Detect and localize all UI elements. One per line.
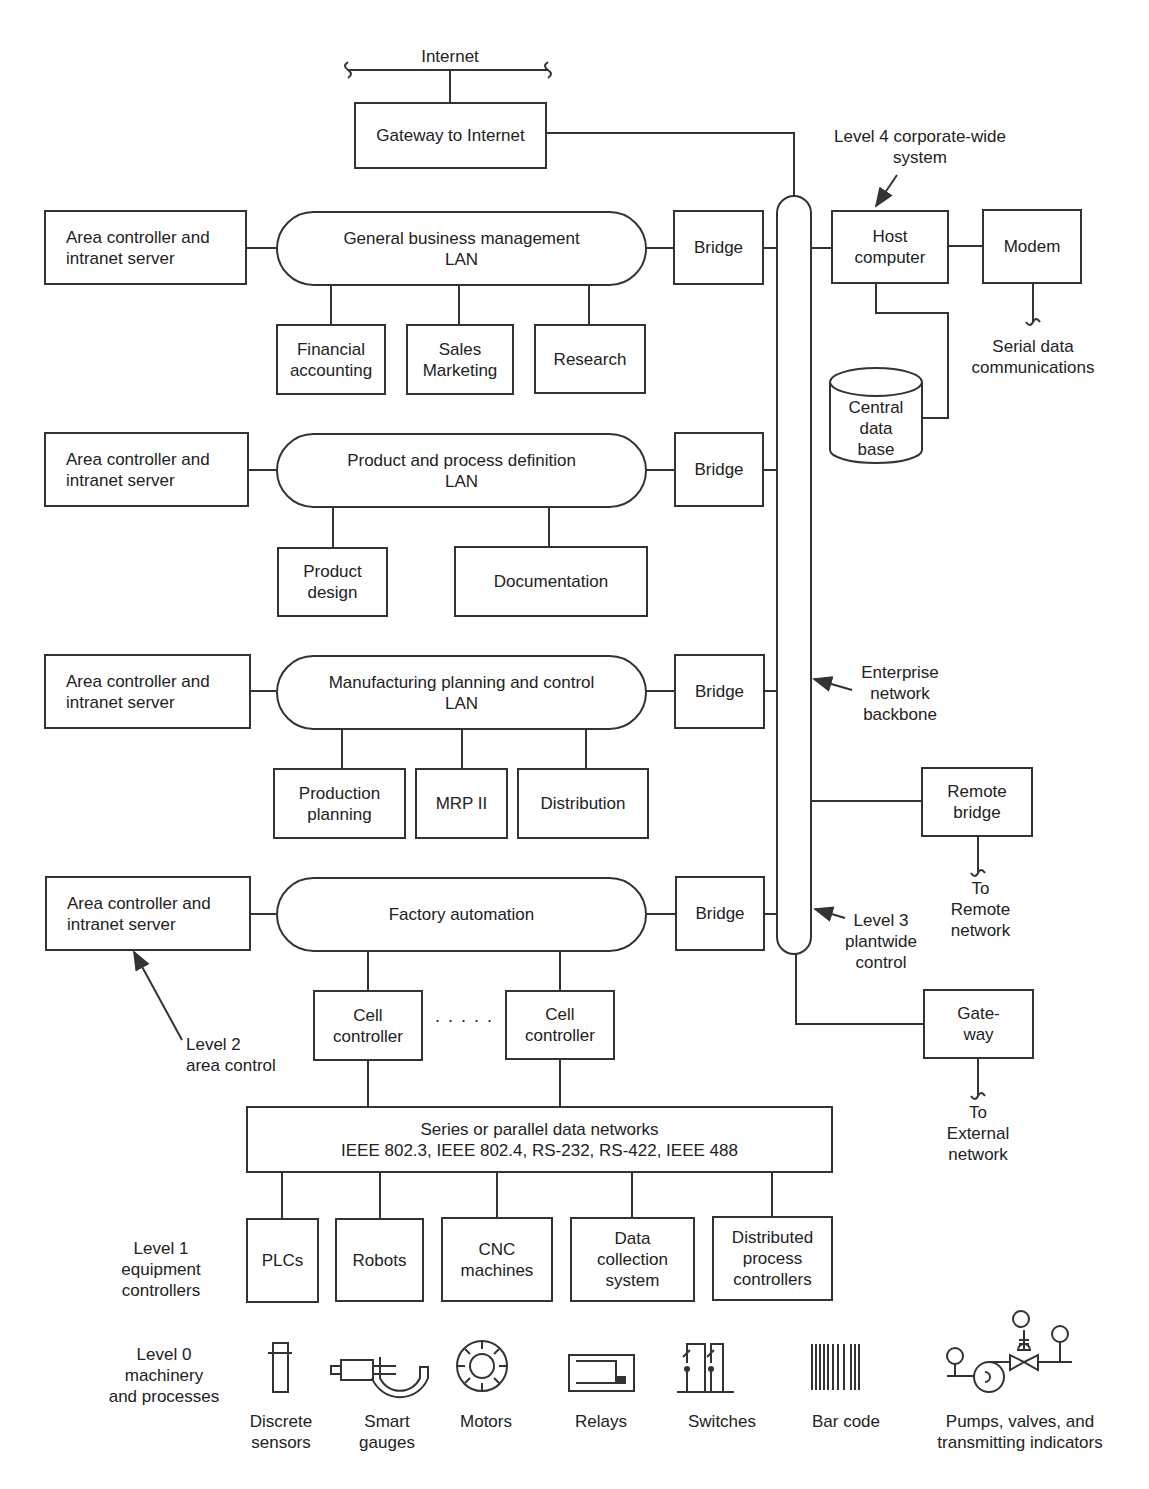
host-computer-box[interactable]: Host computer bbox=[831, 210, 949, 284]
area-controller-box-2[interactable]: Area controller and intranet server bbox=[44, 432, 249, 507]
lan-factory-automation[interactable]: Factory automation bbox=[276, 877, 647, 952]
robots-box[interactable]: Robots bbox=[335, 1218, 424, 1302]
area-controller-box-3[interactable]: Area controller and intranet server bbox=[44, 654, 251, 729]
distributed-process-controllers-box[interactable]: Distributed process controllers bbox=[712, 1216, 833, 1301]
pumps-valves-label: Pumps, valves, and transmitting indicato… bbox=[920, 1411, 1120, 1453]
area-controller-box-4[interactable]: Area controller and intranet server bbox=[45, 876, 251, 951]
serial-data-label: Serial data communications bbox=[948, 336, 1118, 378]
bridge-box-2[interactable]: Bridge bbox=[674, 432, 764, 507]
product-design-box[interactable]: Product design bbox=[277, 547, 388, 617]
lan-general-business[interactable]: General business management LAN bbox=[276, 211, 647, 286]
research-box[interactable]: Research bbox=[534, 324, 646, 394]
discrete-sensors-label: Discrete sensors bbox=[236, 1411, 326, 1453]
modem-box[interactable]: Modem bbox=[982, 209, 1082, 284]
level3-annotation: Level 3 plantwide control bbox=[836, 910, 926, 973]
motor-icon bbox=[457, 1341, 507, 1391]
central-database-label[interactable]: Central data base bbox=[830, 396, 922, 460]
mrp-ii-box[interactable]: MRP II bbox=[415, 768, 508, 839]
relays-label: Relays bbox=[561, 1411, 641, 1432]
relay-icon bbox=[569, 1355, 634, 1391]
internet-label: Internet bbox=[400, 46, 500, 67]
plcs-box[interactable]: PLCs bbox=[246, 1218, 319, 1303]
cell-controller-box-2[interactable]: Cell controller bbox=[505, 990, 615, 1060]
gateway-to-internet-box[interactable]: Gateway to Internet bbox=[354, 102, 547, 169]
level0-annotation: Level 0 machinery and processes bbox=[96, 1344, 232, 1407]
gateway-box[interactable]: Gate- way bbox=[923, 989, 1034, 1059]
external-network-label: To External network bbox=[928, 1102, 1028, 1165]
bridge-box-4[interactable]: Bridge bbox=[675, 876, 765, 951]
bridge-box-3[interactable]: Bridge bbox=[674, 654, 765, 729]
remote-network-label: To Remote network bbox=[938, 878, 1023, 941]
financial-accounting-box[interactable]: Financial accounting bbox=[276, 324, 386, 395]
level2-annotation: Level 2 area control bbox=[186, 1034, 326, 1076]
level4-annotation: Level 4 corporate-wide system bbox=[820, 126, 1020, 168]
bridge-box-1[interactable]: Bridge bbox=[673, 210, 764, 285]
enterprise-backbone-annotation: Enterprise network backbone bbox=[845, 662, 955, 725]
data-networks-box[interactable]: Series or parallel data networks IEEE 80… bbox=[246, 1106, 833, 1173]
pump-valve-icon bbox=[947, 1311, 1072, 1392]
distribution-box[interactable]: Distribution bbox=[517, 768, 649, 839]
lan-product-process[interactable]: Product and process definition LAN bbox=[276, 433, 647, 508]
bar-code-icon bbox=[812, 1344, 859, 1390]
documentation-box[interactable]: Documentation bbox=[454, 546, 648, 617]
bar-code-label: Bar code bbox=[796, 1411, 896, 1432]
smart-gauge-icon bbox=[331, 1357, 428, 1397]
lan-manufacturing-planning[interactable]: Manufacturing planning and control LAN bbox=[276, 655, 647, 730]
data-collection-box[interactable]: Data collection system bbox=[570, 1217, 695, 1302]
motors-label: Motors bbox=[446, 1411, 526, 1432]
sales-marketing-box[interactable]: Sales Marketing bbox=[406, 324, 514, 395]
remote-bridge-box[interactable]: Remote bridge bbox=[921, 767, 1033, 837]
cell-controller-ellipsis: · · · · · bbox=[424, 1010, 504, 1031]
cell-controller-box-1[interactable]: Cell controller bbox=[313, 990, 423, 1061]
smart-gauges-label: Smart gauges bbox=[342, 1411, 432, 1453]
cnc-machines-box[interactable]: CNC machines bbox=[441, 1217, 553, 1302]
switches-icon bbox=[677, 1344, 734, 1392]
switches-label: Switches bbox=[672, 1411, 772, 1432]
discrete-sensor-icon bbox=[268, 1343, 292, 1392]
area-controller-box-1[interactable]: Area controller and intranet server bbox=[44, 210, 247, 285]
level1-annotation: Level 1 equipment controllers bbox=[106, 1238, 216, 1301]
production-planning-box[interactable]: Production planning bbox=[273, 768, 406, 839]
